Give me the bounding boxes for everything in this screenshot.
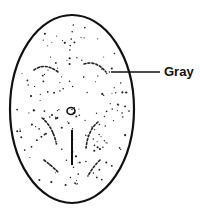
speckle <box>94 129 95 130</box>
speckle <box>66 160 67 161</box>
speckle <box>99 148 101 150</box>
speckle <box>94 145 96 147</box>
speckle <box>103 57 104 58</box>
speckle <box>106 110 108 112</box>
speckle <box>97 146 99 148</box>
speckle <box>33 109 35 111</box>
speckle <box>34 86 35 87</box>
speckle <box>65 184 67 186</box>
speckle <box>83 76 84 77</box>
speckle <box>85 135 86 136</box>
speckle <box>104 116 105 117</box>
speckle <box>76 180 77 181</box>
speckle <box>20 136 22 138</box>
seed-diagram <box>0 0 201 209</box>
speckle <box>106 73 108 75</box>
speckle <box>76 57 77 58</box>
speckle <box>19 130 21 132</box>
speckle <box>103 94 105 96</box>
speckle <box>50 181 52 183</box>
speckle <box>111 108 113 110</box>
speckle <box>69 57 71 59</box>
patch-upper-left <box>34 66 58 72</box>
speckle <box>121 112 123 114</box>
speckle <box>97 141 98 142</box>
speckle <box>43 39 44 40</box>
speckle <box>70 38 72 40</box>
speckle <box>73 24 75 26</box>
speckle <box>101 179 103 181</box>
speckle <box>72 128 73 129</box>
speckle <box>67 121 68 122</box>
speckle <box>77 173 79 175</box>
speckle <box>70 177 72 179</box>
speckle <box>68 122 70 124</box>
speckle <box>26 79 28 81</box>
speckle <box>96 113 97 114</box>
hilum-spot <box>67 108 75 115</box>
speckle <box>71 109 73 111</box>
speckle <box>47 69 48 70</box>
speckle <box>59 82 60 83</box>
speckle <box>44 134 46 136</box>
patch-lower-right-1 <box>86 122 98 148</box>
speckle <box>120 149 121 150</box>
speckle <box>104 125 106 127</box>
speckle <box>47 45 48 46</box>
speckle <box>106 142 107 143</box>
speckle <box>69 80 71 82</box>
speckle <box>66 60 67 61</box>
patch-upper-right <box>84 63 106 72</box>
speckle <box>109 71 110 72</box>
speckle <box>77 162 78 163</box>
speckle <box>119 147 121 149</box>
patch-lower-right-2 <box>88 160 100 176</box>
patch-lower-left-1 <box>42 118 56 142</box>
speckle <box>50 57 51 58</box>
speckle <box>128 110 130 112</box>
speckle <box>40 136 42 138</box>
speckle <box>93 172 94 173</box>
speckle <box>111 67 113 69</box>
speckle <box>113 120 114 121</box>
speckle <box>71 31 73 33</box>
speckle <box>58 109 59 110</box>
speckle <box>16 130 18 132</box>
speckle <box>57 68 58 69</box>
speckle <box>40 100 41 101</box>
speckle <box>56 117 58 119</box>
speckle <box>30 95 32 97</box>
speckle <box>111 93 112 94</box>
speckle <box>22 73 23 74</box>
speckle <box>75 115 77 117</box>
speckle <box>78 114 80 116</box>
speckle <box>122 116 124 118</box>
speckle <box>85 161 87 163</box>
speckle <box>61 148 63 150</box>
speckle <box>40 94 41 95</box>
speckle <box>98 169 100 171</box>
speckle <box>64 42 66 44</box>
speckle <box>83 37 84 38</box>
speckle <box>114 87 115 88</box>
speckle <box>114 53 115 54</box>
speckle <box>102 146 104 148</box>
speckle <box>55 62 57 64</box>
speckle <box>62 40 63 41</box>
speckle <box>72 86 73 87</box>
speckle <box>120 82 122 84</box>
speckle <box>16 109 18 111</box>
speckle <box>124 105 126 107</box>
speckle <box>35 126 36 127</box>
speckle <box>99 124 101 126</box>
speckle <box>74 182 76 184</box>
speckle <box>44 33 46 35</box>
speckle <box>28 112 29 113</box>
speckle <box>97 38 98 39</box>
speckle <box>27 84 28 85</box>
speckle <box>79 162 81 164</box>
speckle <box>38 179 40 181</box>
speckle <box>69 63 71 65</box>
patch-lower-left-2 <box>44 160 58 172</box>
speckle <box>42 75 44 77</box>
